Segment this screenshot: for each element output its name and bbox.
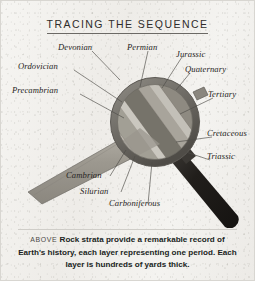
label-cretaceous: Cretaceous — [207, 128, 247, 138]
caption-above-label: ABOVE — [30, 236, 57, 243]
label-cambrian: Cambrian — [66, 170, 102, 180]
illustration-magnifying-glass: Devonian Permian Jurassic Quaternary Ord… — [0, 32, 255, 228]
label-triassic: Triassic — [207, 151, 235, 161]
label-permian: Permian — [127, 42, 157, 52]
label-ordovician: Ordovician — [18, 61, 58, 71]
label-devonian: Devonian — [58, 42, 92, 52]
label-precambrian: Precambrian — [12, 85, 58, 95]
label-silurian: Silurian — [80, 186, 109, 196]
figure-plate: TRACING THE SEQUENCE — [0, 0, 255, 281]
leader-devonian — [92, 51, 120, 80]
figure-title-block: TRACING THE SEQUENCE — [0, 14, 255, 34]
label-tertiary: Tertiary — [208, 89, 236, 99]
label-carboniferous: Carboniferous — [109, 198, 160, 208]
caption-divider — [18, 229, 237, 230]
label-quaternary: Quaternary — [185, 64, 226, 74]
figure-caption: ABOVE Rock strata provide a remarkable r… — [16, 234, 239, 272]
label-jurassic: Jurassic — [176, 49, 205, 59]
